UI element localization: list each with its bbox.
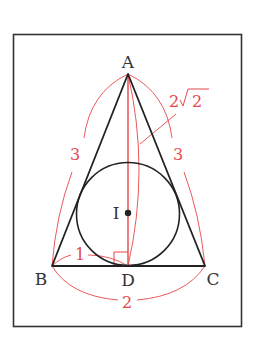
label-d: D bbox=[121, 270, 135, 290]
geometry-figure: A B C D I 3 3 1 2 2 2 bbox=[0, 0, 254, 348]
label-a: A bbox=[121, 52, 135, 72]
measure-ac: 3 bbox=[173, 145, 183, 164]
measure-ad: 2 2 bbox=[169, 89, 209, 111]
arc-bc-left bbox=[52, 266, 118, 300]
measure-ad-radicand: 2 bbox=[192, 92, 202, 111]
label-i: I bbox=[113, 203, 120, 223]
measure-bc: 2 bbox=[122, 293, 132, 312]
measure-ad-coef: 2 bbox=[169, 92, 179, 111]
measure-bd: 1 bbox=[75, 245, 85, 264]
label-b: B bbox=[35, 269, 48, 289]
arc-ad bbox=[128, 74, 139, 266]
measure-ab: 3 bbox=[70, 145, 80, 164]
arc-bc-right bbox=[137, 266, 205, 300]
arc-ab-lower bbox=[52, 172, 72, 266]
arc-ac-lower bbox=[184, 172, 205, 266]
label-c: C bbox=[206, 269, 219, 289]
incenter-dot bbox=[125, 210, 131, 216]
